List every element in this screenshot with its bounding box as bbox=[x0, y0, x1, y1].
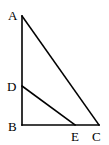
segment-ac bbox=[22, 16, 99, 125]
label-e: E bbox=[71, 129, 79, 144]
label-b: B bbox=[8, 119, 17, 134]
segment-de bbox=[22, 86, 75, 125]
label-c: C bbox=[92, 129, 101, 144]
label-a: A bbox=[8, 8, 18, 23]
triangle-diagram: A D B E C bbox=[0, 0, 109, 145]
label-d: D bbox=[7, 79, 16, 94]
